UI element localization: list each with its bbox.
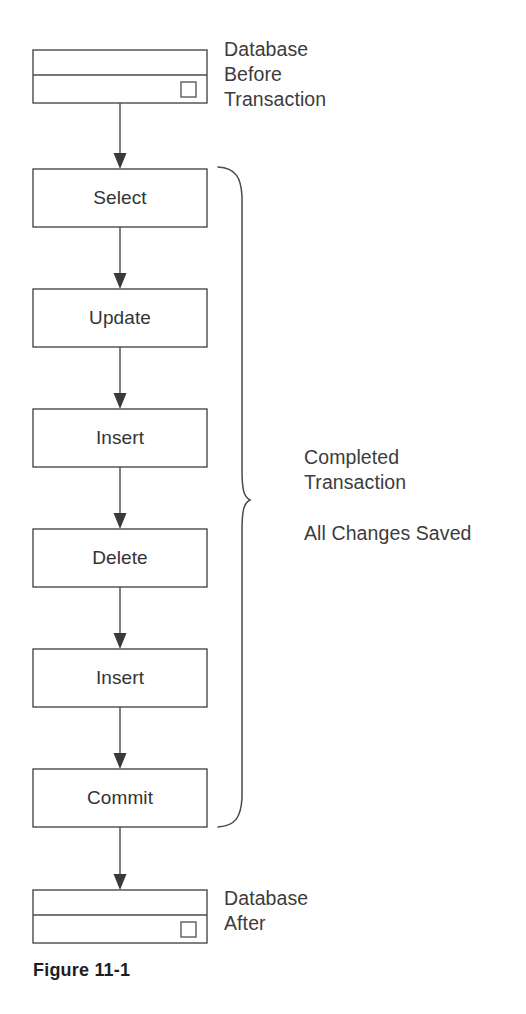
step-label-insert-1: Insert [33, 428, 207, 447]
curly-brace [218, 167, 250, 827]
step-label-delete: Delete [33, 548, 207, 567]
arrow-insert-2-to-commit [114, 707, 127, 769]
top-database-annotation-line-3: Transaction [224, 90, 326, 110]
arrow-delete-to-insert-2 [114, 587, 127, 649]
brace-group-label-line-1: Completed [304, 448, 399, 468]
step-label-select: Select [33, 188, 207, 207]
bottom-database-annotation-line-2: After [224, 914, 266, 934]
figure-caption: Figure 11-1 [33, 961, 130, 979]
step-label-insert-2: Insert [33, 668, 207, 687]
diagram-canvas [0, 0, 526, 1014]
top-database-annotation-line-2: Before [224, 65, 282, 85]
figure-diagram: Select Update Insert Delete Insert Commi… [0, 0, 526, 1014]
arrow-select-to-update [114, 227, 127, 289]
top-database-annotation-line-1: Database [224, 40, 308, 60]
step-label-commit: Commit [33, 788, 207, 807]
bottom-database-shape [33, 890, 207, 943]
arrow-topdb-to-select [114, 103, 127, 169]
brace-result-label: All Changes Saved [304, 524, 472, 544]
arrow-commit-to-bottomdb [114, 827, 127, 890]
step-label-update: Update [33, 308, 207, 327]
bottom-database-annotation-line-1: Database [224, 889, 308, 909]
brace-group-label-line-2: Transaction [304, 473, 406, 493]
arrow-insert-1-to-delete [114, 467, 127, 529]
arrow-update-to-insert-1 [114, 347, 127, 409]
top-database-shape [33, 50, 207, 103]
